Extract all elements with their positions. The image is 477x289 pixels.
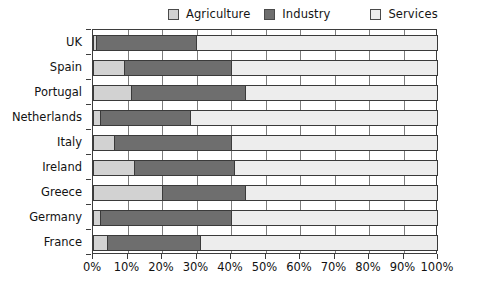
bar-segment-agriculture [93, 210, 100, 226]
x-axis-tick [437, 254, 438, 259]
x-axis-tick [196, 254, 197, 259]
x-axis-label: 80% [355, 260, 381, 274]
x-axis-tick [161, 254, 162, 259]
bar-segment-agriculture [93, 85, 131, 101]
x-axis-tick [230, 254, 231, 259]
bar-segment-agriculture [93, 135, 114, 151]
bar-row [93, 135, 438, 151]
x-axis-label: 60% [286, 260, 312, 274]
legend-item-services: Services [370, 7, 437, 21]
y-axis-tick [86, 179, 91, 180]
x-axis-label: 10% [114, 260, 140, 274]
bar-row [93, 210, 438, 226]
legend-swatch-industry [264, 9, 275, 20]
x-axis-label: 30% [183, 260, 209, 274]
x-axis-tick [299, 254, 300, 259]
bar-row [93, 160, 438, 176]
y-axis-tick [86, 229, 91, 230]
y-axis-tick [86, 104, 91, 105]
x-axis-label: 70% [321, 260, 347, 274]
legend-item-industry: Industry [264, 7, 330, 21]
x-axis-label: 100% [421, 260, 454, 274]
bar-segment-services [196, 35, 438, 51]
x-axis-tick [127, 254, 128, 259]
legend-item-agriculture: Agriculture [168, 7, 250, 21]
bar-row [93, 110, 438, 126]
bar-segment-industry [134, 160, 234, 176]
bar-segment-agriculture [93, 185, 162, 201]
x-axis-label: 20% [148, 260, 174, 274]
x-axis-label: 40% [217, 260, 243, 274]
y-axis-tick [86, 254, 91, 255]
bar-segment-industry [114, 135, 231, 151]
bar-segment-services [231, 210, 438, 226]
bar-segment-services [190, 110, 438, 126]
bar-segment-services [234, 160, 438, 176]
legend-label-services: Services [388, 7, 437, 21]
bar-row [93, 35, 438, 51]
legend-swatch-services [370, 9, 381, 20]
bar-segment-industry [124, 60, 231, 76]
bar-segment-services [245, 85, 438, 101]
bar-segment-industry [100, 210, 231, 226]
x-axis-label: 90% [390, 260, 416, 274]
y-axis-label-greece: Greece [41, 185, 82, 199]
bar-segment-industry [131, 85, 245, 101]
x-axis-tick [265, 254, 266, 259]
y-axis: UKSpainPortugalNetherlandsItalyIrelandGr… [0, 29, 88, 254]
y-axis-label-portugal: Portugal [34, 85, 82, 99]
chart-legend: Agriculture Industry Services [168, 6, 468, 22]
y-axis-label-ireland: Ireland [42, 160, 82, 174]
y-axis-tick [86, 54, 91, 55]
y-axis-label-germany: Germany [29, 210, 82, 224]
bar-segment-industry [96, 35, 196, 51]
y-axis-label-france: France [44, 235, 82, 249]
y-axis-tick [86, 154, 91, 155]
y-axis-label-netherlands: Netherlands [12, 110, 82, 124]
y-axis-tick [86, 204, 91, 205]
y-axis-tick [86, 129, 91, 130]
bar-segment-industry [107, 235, 200, 251]
y-axis-tick [86, 79, 91, 80]
stacked-bar-chart: Agriculture Industry Services UKSpainPor… [0, 0, 477, 289]
bar-series-container [93, 30, 436, 253]
bar-row [93, 85, 438, 101]
bar-segment-industry [100, 110, 190, 126]
legend-label-industry: Industry [282, 7, 330, 21]
y-axis-label-italy: Italy [57, 135, 82, 149]
bar-row [93, 235, 438, 251]
bar-segment-agriculture [93, 110, 100, 126]
bar-segment-agriculture [93, 160, 134, 176]
y-axis-label-uk: UK [66, 35, 82, 49]
bar-segment-services [200, 235, 438, 251]
y-axis-label-spain: Spain [50, 60, 82, 74]
x-axis-tick [334, 254, 335, 259]
plot-area [92, 29, 437, 254]
bar-row [93, 185, 438, 201]
legend-label-agriculture: Agriculture [186, 7, 250, 21]
x-axis-label: 0% [83, 260, 101, 274]
bar-segment-services [231, 135, 438, 151]
x-axis-label: 50% [252, 260, 278, 274]
bar-segment-services [245, 185, 438, 201]
x-axis-tick [92, 254, 93, 259]
x-axis-tick [368, 254, 369, 259]
bar-row [93, 60, 438, 76]
bar-segment-agriculture [93, 235, 107, 251]
x-axis-tick [403, 254, 404, 259]
bar-segment-agriculture [93, 60, 124, 76]
y-axis-tick [86, 29, 91, 30]
legend-swatch-agriculture [168, 9, 179, 20]
x-axis: 0%10%20%30%40%50%60%70%80%90%100% [92, 254, 437, 284]
bar-segment-services [231, 60, 438, 76]
bar-segment-industry [162, 185, 245, 201]
